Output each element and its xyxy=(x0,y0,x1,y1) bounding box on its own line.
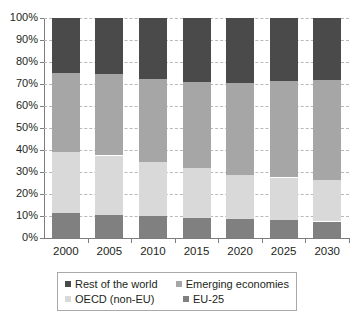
y-tick-mark xyxy=(40,238,44,239)
legend-label: Emerging economies xyxy=(186,278,289,290)
x-tick-label: 2020 xyxy=(218,245,262,258)
bar-column xyxy=(95,18,123,238)
y-tick-mark xyxy=(40,40,44,41)
legend-row: OECD (non-EU) EU-25 xyxy=(65,291,289,306)
y-tick-label: 20% xyxy=(0,188,38,199)
x-tick-mark xyxy=(218,239,219,243)
bar-column xyxy=(183,18,211,238)
x-tick-mark xyxy=(175,239,176,243)
bar-segment xyxy=(95,74,123,155)
bar-segment xyxy=(139,216,167,238)
y-tick-label: 30% xyxy=(0,166,38,177)
y-tick-mark xyxy=(40,128,44,129)
x-tick-mark xyxy=(131,239,132,243)
bar-segment xyxy=(52,18,80,73)
bar-segment xyxy=(183,218,211,238)
legend-swatch-icon xyxy=(65,296,71,302)
bar-segment xyxy=(95,18,123,74)
y-tick-mark xyxy=(40,216,44,217)
bar-segment xyxy=(95,156,123,215)
x-tick-label: 2025 xyxy=(262,245,306,258)
bar-segment xyxy=(270,81,298,178)
y-tick-mark xyxy=(40,150,44,151)
bar-segment xyxy=(313,180,341,222)
bar-segment xyxy=(226,18,254,83)
legend-entry-rest-of-the-world: Rest of the world xyxy=(65,278,176,290)
legend-label: OECD (non-EU) xyxy=(75,293,154,305)
legend-swatch-icon xyxy=(65,281,71,287)
bar-segment xyxy=(270,178,298,221)
y-tick-mark xyxy=(40,106,44,107)
x-tick-label: 2000 xyxy=(44,245,88,258)
bar-segment xyxy=(139,18,167,79)
y-tick-label: 0% xyxy=(0,232,38,243)
legend-label: EU-25 xyxy=(193,293,224,305)
y-tick-label: 40% xyxy=(0,144,38,155)
x-tick-mark xyxy=(305,239,306,243)
bar-segment xyxy=(270,220,298,238)
bar-segment xyxy=(183,18,211,82)
y-tick-mark xyxy=(40,194,44,195)
bar-segment xyxy=(226,83,254,175)
bar-column xyxy=(139,18,167,238)
bar-segment xyxy=(313,222,341,239)
bar-column xyxy=(313,18,341,238)
bar-segment xyxy=(226,175,254,219)
chart-legend: Rest of the world Emerging economies OEC… xyxy=(57,272,297,311)
bar-column xyxy=(226,18,254,238)
y-tick-mark xyxy=(40,172,44,173)
y-tick-mark xyxy=(40,18,44,19)
bar-segment xyxy=(226,219,254,238)
y-tick-label: 10% xyxy=(0,210,38,221)
legend-entry-eu-25: EU-25 xyxy=(183,293,224,305)
bar-segment xyxy=(139,79,167,163)
bar-segment xyxy=(95,215,123,238)
x-tick-label: 2010 xyxy=(131,245,175,258)
x-tick-mark xyxy=(88,239,89,243)
y-tick-label: 80% xyxy=(0,56,38,67)
bar-column xyxy=(52,18,80,238)
x-tick-label: 2030 xyxy=(305,245,349,258)
x-axis-line xyxy=(44,238,350,239)
y-tick-label: 50% xyxy=(0,122,38,133)
y-tick-label: 70% xyxy=(0,78,38,89)
bar-segment xyxy=(139,162,167,216)
bar-segment xyxy=(183,168,211,219)
bar-segment xyxy=(52,73,80,152)
y-tick-label: 90% xyxy=(0,34,38,45)
bar-column xyxy=(270,18,298,238)
legend-swatch-icon xyxy=(183,296,189,302)
bar-segment xyxy=(183,82,211,168)
plot-area xyxy=(44,18,349,238)
x-tick-mark xyxy=(349,239,350,243)
legend-entry-emerging-economies: Emerging economies xyxy=(176,278,289,290)
y-tick-mark xyxy=(40,84,44,85)
legend-entry-oecd-non-eu: OECD (non-EU) xyxy=(65,293,183,305)
bar-segment xyxy=(52,152,80,213)
x-tick-label: 2005 xyxy=(87,245,131,258)
bar-segment xyxy=(52,213,80,238)
y-tick-label: 100% xyxy=(0,12,38,23)
bar-segment xyxy=(270,18,298,81)
x-tick-label: 2015 xyxy=(175,245,219,258)
stacked-bar-chart: 0%10%20%30%40%50%60%70%80%90%100% 200020… xyxy=(0,0,356,318)
legend-row: Rest of the world Emerging economies xyxy=(65,276,289,291)
legend-label: Rest of the world xyxy=(75,278,158,290)
y-tick-label: 60% xyxy=(0,100,38,111)
bar-segment xyxy=(313,18,341,80)
x-tick-mark xyxy=(262,239,263,243)
legend-swatch-icon xyxy=(176,281,182,287)
bar-segment xyxy=(313,80,341,180)
y-tick-mark xyxy=(40,62,44,63)
